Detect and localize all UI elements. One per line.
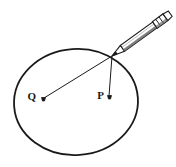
circle-group [10,45,141,159]
point-labels-group: Q P [27,89,104,102]
pencil-barrel-edge-line [122,24,154,48]
point-marker-q [42,98,46,102]
pencil [110,10,173,59]
figure-canvas: Q P [0,0,176,167]
main-circle [10,45,141,159]
geometry-diagram: Q P [0,0,176,167]
point-marker-p [108,96,112,100]
point-label-p: P [97,89,104,101]
pencil-barrel-shading [123,26,157,51]
segment-p-to-contact [109,56,112,96]
point-label-q: Q [27,90,36,102]
pencil-barrel [120,22,157,51]
